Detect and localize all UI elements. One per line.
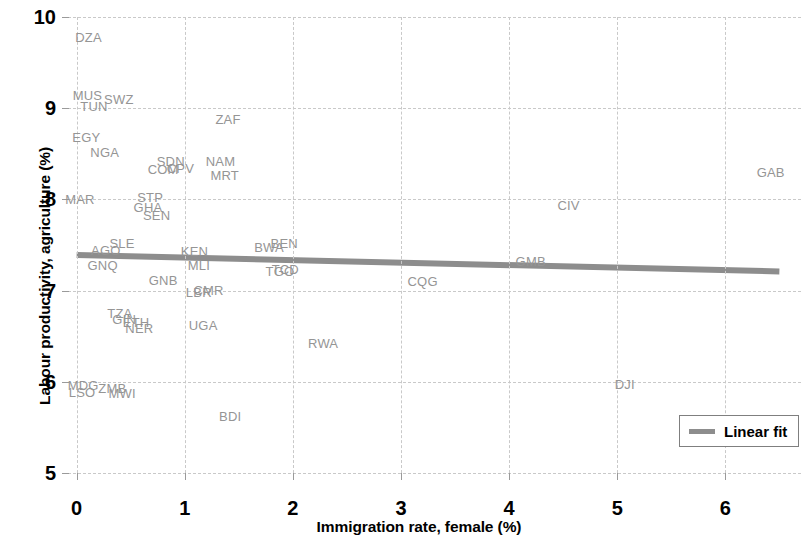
y-tick-mark: [62, 108, 69, 109]
y-tick-mark: [62, 473, 69, 474]
plot-area: 56789100123456DZAMUSTUNSWZZAFEGYNGASDNNA…: [68, 17, 801, 473]
data-point-label: BEN: [271, 236, 298, 251]
data-point-label: GAB: [757, 165, 785, 180]
y-tick-label: 10: [16, 6, 56, 29]
x-tick-mark: [293, 473, 294, 480]
y-tick-label: 9: [16, 97, 56, 120]
gridline-horizontal: [68, 291, 801, 292]
gridline-vertical: [617, 17, 618, 473]
gridline-vertical: [401, 17, 402, 473]
gridline-horizontal: [68, 382, 801, 383]
gridline-vertical: [509, 17, 510, 473]
x-tick-label: 4: [489, 497, 529, 520]
legend-line-swatch: [689, 429, 715, 434]
x-tick-label: 5: [597, 497, 637, 520]
data-point-label: NER: [125, 320, 153, 335]
data-point-label: TGO: [266, 264, 295, 279]
x-tick-mark: [509, 473, 510, 480]
data-point-label: MAR: [65, 192, 95, 207]
gridline-horizontal: [68, 199, 801, 200]
x-tick-mark: [617, 473, 618, 480]
data-point-label: DJI: [615, 376, 635, 391]
x-tick-mark: [401, 473, 402, 480]
x-tick-mark: [77, 473, 78, 480]
data-point-label: MWI: [108, 385, 135, 400]
data-point-label: GNB: [149, 272, 178, 287]
data-point-label: CIV: [557, 197, 579, 212]
x-tick-label: 6: [705, 497, 745, 520]
data-point-label: SWZ: [104, 92, 133, 107]
gridline-horizontal: [68, 108, 801, 109]
x-tick-mark: [185, 473, 186, 480]
data-point-label: CPV: [167, 161, 194, 176]
y-tick-label: 5: [16, 462, 56, 485]
data-point-label: EGY: [72, 130, 100, 145]
x-axis-title: Immigration rate, female (%): [68, 518, 770, 536]
data-point-label: AGO: [91, 242, 121, 257]
y-tick-label: 6: [16, 370, 56, 393]
data-point-label: RWA: [308, 335, 338, 350]
data-point-label: ZAF: [215, 112, 240, 127]
x-tick-label: 0: [57, 497, 97, 520]
x-tick-label: 3: [381, 497, 421, 520]
data-point-label: SEN: [143, 207, 170, 222]
data-point-label: DZA: [75, 30, 102, 45]
gridline-horizontal: [68, 17, 801, 18]
data-point-label: UGA: [189, 318, 218, 333]
data-point-label: GMB: [516, 253, 546, 268]
data-point-label: GNQ: [87, 258, 117, 273]
legend-entry-label: Linear fit: [724, 423, 787, 440]
x-tick-mark: [725, 473, 726, 480]
data-point-label: LSO: [69, 384, 96, 399]
y-tick-mark: [62, 291, 69, 292]
gridline-horizontal: [68, 473, 801, 474]
data-point-label: CQG: [407, 273, 437, 288]
data-point-label: MLI: [188, 258, 210, 273]
x-tick-label: 1: [165, 497, 205, 520]
data-point-label: MRT: [210, 167, 239, 182]
y-tick-mark: [62, 17, 69, 18]
chart-legend: Linear fit: [679, 415, 799, 447]
scatter-chart: Labour productivity, agriculture (%) Imm…: [0, 0, 809, 552]
y-tick-label: 8: [16, 188, 56, 211]
gridline-vertical: [725, 17, 726, 473]
y-tick-label: 7: [16, 279, 56, 302]
data-point-label: LBR: [186, 285, 212, 300]
data-point-label: NGA: [90, 144, 119, 159]
linear-fit-line: [68, 17, 801, 473]
data-point-label: BDI: [219, 408, 241, 423]
gridline-vertical: [77, 17, 78, 473]
x-tick-label: 2: [273, 497, 313, 520]
